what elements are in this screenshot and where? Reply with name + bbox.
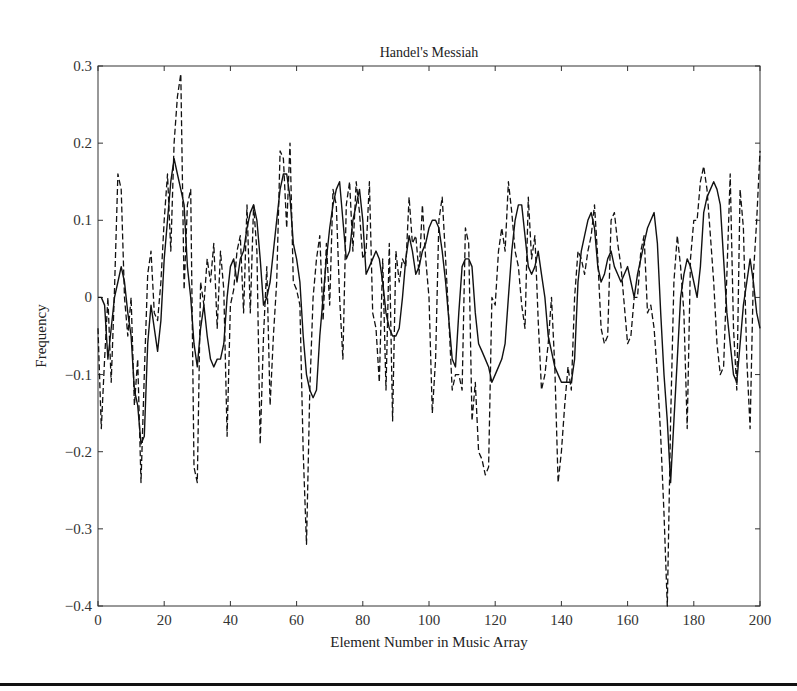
page-rule bbox=[0, 683, 797, 686]
x-tick-label: 60 bbox=[289, 612, 304, 628]
x-tick-label: 140 bbox=[550, 612, 573, 628]
x-axis-label: Element Number in Music Array bbox=[330, 634, 528, 650]
data-series bbox=[98, 74, 760, 606]
y-tick-label: −0.1 bbox=[65, 367, 92, 383]
y-tick-label: 0 bbox=[85, 289, 93, 305]
series-raw bbox=[98, 74, 760, 606]
plot-frame bbox=[98, 66, 760, 606]
x-tick-label: 180 bbox=[683, 612, 706, 628]
chart: Handel's Messiah 02040608010012014016018… bbox=[0, 0, 797, 691]
y-tick-label: −0.4 bbox=[65, 598, 93, 614]
x-tick-label: 120 bbox=[484, 612, 507, 628]
y-tick-label: −0.2 bbox=[65, 444, 92, 460]
y-tick-label: −0.3 bbox=[65, 521, 92, 537]
x-tick-label: 200 bbox=[749, 612, 772, 628]
x-tick-label: 100 bbox=[418, 612, 441, 628]
y-axis-label: Frequency bbox=[33, 304, 49, 368]
x-tick-label: 40 bbox=[223, 612, 238, 628]
y-tick-label: 0.1 bbox=[73, 212, 92, 228]
y-tick-label: 0.2 bbox=[73, 135, 92, 151]
chart-title: Handel's Messiah bbox=[380, 45, 479, 60]
x-tick-label: 80 bbox=[355, 612, 370, 628]
x-tick-label: 0 bbox=[94, 612, 102, 628]
x-tick-label: 160 bbox=[616, 612, 639, 628]
y-tick-label: 0.3 bbox=[73, 58, 92, 74]
x-tick-label: 20 bbox=[157, 612, 172, 628]
